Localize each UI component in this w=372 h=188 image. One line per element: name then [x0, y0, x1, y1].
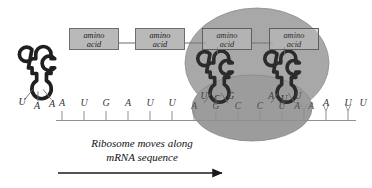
mrna-codon-base-3: C	[231, 101, 245, 111]
trna-free	[19, 47, 54, 102]
amino-acid-box-4: amino acid	[269, 28, 319, 50]
mrna-codon-base-4: C	[253, 101, 267, 111]
figure-caption: Ribosome moves along mRNA sequence	[42, 136, 242, 164]
mrna-codon-base-1: A	[187, 101, 201, 111]
mrna-left-base-3: G	[99, 97, 113, 108]
mrna-codon-base-2: G	[209, 101, 223, 111]
mrna-codon-base-7: A	[304, 101, 318, 111]
trna-a-anticodon-1: A	[264, 91, 278, 101]
free-trna-base-1: U	[15, 96, 29, 107]
mrna-left-base-2: U	[77, 97, 91, 108]
amino-acid-box-2: amino acid	[135, 28, 185, 50]
mrna-codon-base-5: U	[275, 101, 289, 111]
trna-p-anticodon-1: U	[197, 91, 211, 101]
mrna-left-base-5: U	[143, 97, 157, 108]
translation-diagram: amino acid amino acid amino acid amino a…	[0, 0, 372, 188]
trna-clover-body	[19, 47, 54, 99]
trna-a-anticodon-3: U	[291, 91, 305, 101]
mrna-right-base-3: U	[356, 97, 370, 108]
amino-acid-box-3: amino acid	[202, 28, 252, 50]
mrna-left-base-4: A	[121, 97, 135, 108]
mrna-codon-base-6: A	[290, 101, 304, 111]
mrna-right-base-1: A	[319, 97, 333, 108]
free-trna-base-2: A	[30, 100, 44, 111]
trna-p-anticodon-3: G	[224, 91, 238, 101]
amino-acid-box-1: amino acid	[69, 28, 119, 50]
mrna-left-base-6: U	[165, 97, 179, 108]
mrna-right-base-2: U	[341, 97, 355, 108]
mrna-left-base-1: A	[55, 97, 69, 108]
